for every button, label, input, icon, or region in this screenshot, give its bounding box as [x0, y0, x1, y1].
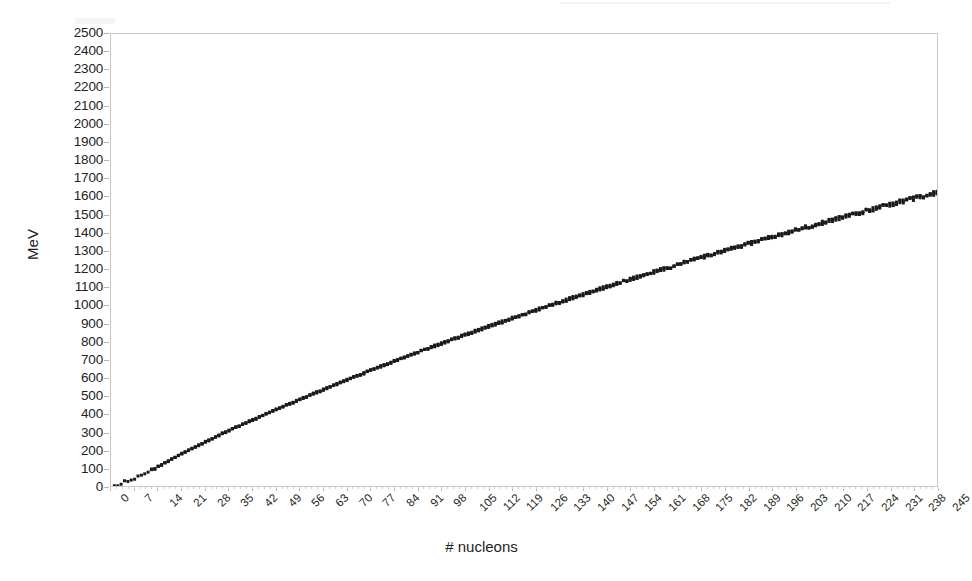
x-minor-tick-mark	[418, 487, 419, 489]
x-minor-tick-mark	[861, 487, 862, 489]
x-minor-tick-mark	[725, 487, 726, 489]
x-minor-tick-mark	[849, 487, 850, 489]
y-tick-label: 800	[30, 335, 103, 349]
x-minor-tick-mark	[122, 487, 123, 489]
x-tick-label: 56	[310, 492, 327, 509]
x-minor-tick-mark	[873, 487, 874, 489]
x-minor-tick-mark	[128, 487, 129, 489]
y-tick-label: 2100	[30, 99, 103, 113]
x-minor-tick-mark	[737, 487, 738, 489]
x-minor-tick-mark	[554, 487, 555, 489]
x-tick-label: 224	[880, 492, 902, 514]
y-tick-label: 1600	[30, 189, 103, 203]
y-tick-label: 2500	[30, 26, 103, 40]
x-minor-tick-mark	[565, 487, 566, 489]
x-tick-label: 175	[714, 492, 736, 514]
y-tick-label: 1900	[30, 135, 103, 149]
x-minor-tick-mark	[234, 487, 235, 489]
x-minor-tick-mark	[199, 487, 200, 489]
x-tick-label: 77	[381, 492, 398, 509]
y-tick-label: 1400	[30, 226, 103, 240]
x-minor-tick-mark	[755, 487, 756, 489]
x-tick-label: 14	[168, 492, 185, 509]
x-minor-tick-mark	[412, 487, 413, 489]
x-minor-tick-mark	[837, 487, 838, 489]
y-tick-label: 500	[30, 389, 103, 403]
y-tick-label: 2200	[30, 80, 103, 94]
y-tick-label: 600	[30, 371, 103, 385]
y-tick-label: 2300	[30, 62, 103, 76]
x-tick-label: 147	[619, 492, 641, 514]
y-tick-mark	[104, 69, 109, 70]
x-tick-label: 210	[832, 492, 854, 514]
y-tick-mark	[104, 469, 109, 470]
x-minor-tick-mark	[843, 487, 844, 489]
x-minor-tick-mark	[524, 487, 525, 489]
y-tick-label: 300	[30, 426, 103, 440]
x-minor-tick-mark	[435, 487, 436, 489]
x-minor-tick-mark	[903, 487, 904, 489]
x-minor-tick-mark	[441, 487, 442, 489]
x-minor-tick-mark	[642, 487, 643, 489]
y-tick-label: 1800	[30, 153, 103, 167]
x-minor-tick-mark	[270, 487, 271, 489]
y-tick-label: 1100	[30, 280, 103, 294]
y-tick-mark	[104, 142, 109, 143]
x-minor-tick-mark	[707, 487, 708, 489]
x-minor-tick-mark	[654, 487, 655, 489]
x-minor-tick-mark	[240, 487, 241, 489]
x-minor-tick-mark	[110, 487, 111, 489]
x-tick-label: 112	[501, 492, 522, 513]
x-minor-tick-mark	[678, 487, 679, 489]
x-minor-tick-mark	[613, 487, 614, 489]
y-axis-tick-labels: 0100200300400500600700800900100011001200…	[30, 33, 103, 487]
x-tick-label: 42	[263, 492, 280, 509]
x-minor-tick-mark	[388, 487, 389, 489]
y-tick-mark	[104, 160, 109, 161]
y-tick-mark	[104, 414, 109, 415]
x-tick-label: 182	[738, 492, 760, 514]
x-minor-tick-mark	[666, 487, 667, 489]
x-minor-tick-mark	[802, 487, 803, 489]
x-minor-tick-mark	[400, 487, 401, 489]
x-minor-tick-mark	[926, 487, 927, 489]
x-minor-tick-mark	[299, 487, 300, 489]
x-minor-tick-mark	[323, 487, 324, 489]
x-minor-tick-mark	[341, 487, 342, 489]
y-tick-label: 2000	[30, 117, 103, 131]
x-tick-label: 189	[761, 492, 783, 514]
x-minor-tick-mark	[311, 487, 312, 489]
x-tick-label: 119	[525, 492, 546, 513]
x-tick-label: 126	[548, 492, 570, 514]
x-minor-tick-mark	[157, 487, 158, 489]
x-minor-tick-mark	[932, 487, 933, 489]
x-minor-tick-mark	[500, 487, 501, 489]
x-tick-label: 168	[690, 492, 712, 514]
x-minor-tick-mark	[216, 487, 217, 489]
x-minor-tick-mark	[489, 487, 490, 489]
y-tick-mark	[104, 487, 109, 488]
y-tick-mark	[104, 305, 109, 306]
y-tick-mark	[104, 287, 109, 288]
x-minor-tick-mark	[459, 487, 460, 489]
x-minor-tick-mark	[305, 487, 306, 489]
x-minor-tick-mark	[589, 487, 590, 489]
y-tick-mark	[104, 196, 109, 197]
x-minor-tick-mark	[938, 487, 939, 489]
y-tick-mark	[104, 324, 109, 325]
x-tick-label: 203	[809, 492, 831, 514]
x-minor-tick-mark	[891, 487, 892, 489]
x-minor-tick-mark	[429, 487, 430, 489]
y-tick-mark	[104, 378, 109, 379]
x-minor-tick-mark	[542, 487, 543, 489]
x-minor-tick-mark	[358, 487, 359, 489]
x-minor-tick-mark	[228, 487, 229, 489]
x-minor-tick-mark	[364, 487, 365, 489]
y-tick-label: 200	[30, 444, 103, 458]
x-minor-tick-mark	[713, 487, 714, 489]
plot-area	[110, 33, 938, 487]
y-tick-mark	[104, 178, 109, 179]
x-tick-label: 70	[357, 492, 374, 509]
x-minor-tick-mark	[382, 487, 383, 489]
